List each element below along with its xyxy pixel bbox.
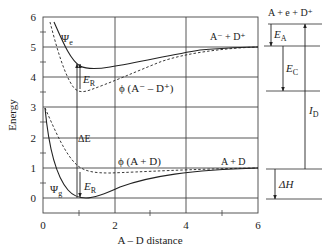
svg-text:5: 5 (31, 41, 37, 53)
x-tick-labels: 0 2 4 6 (40, 219, 261, 231)
svg-text:1: 1 (31, 162, 37, 174)
plot-area (43, 17, 258, 213)
svg-text:2: 2 (112, 219, 118, 231)
plot-labels: Ψe ER ϕ (A⁻ – D⁺) A⁻ + D⁺ ΔE ϕ (A + D) A… (50, 31, 246, 198)
svg-text:3: 3 (31, 101, 37, 113)
svg-text:4: 4 (31, 71, 37, 83)
y-tick-labels: 0 1 2 3 4 5 6 (31, 11, 37, 204)
svg-text:A + e + D⁺: A + e + D⁺ (268, 7, 313, 18)
svg-text:ER: ER (83, 180, 97, 195)
svg-text:2: 2 (31, 132, 37, 144)
svg-text:ER: ER (82, 73, 96, 88)
svg-text:EA: EA (273, 28, 287, 43)
svg-text:ΔH: ΔH (278, 178, 294, 190)
svg-text:ΔE: ΔE (78, 133, 91, 144)
curve-psi-e (54, 22, 258, 69)
svg-text:6: 6 (31, 11, 37, 23)
svg-text:Ψg: Ψg (50, 183, 62, 198)
svg-text:ID: ID (308, 104, 319, 119)
svg-text:4: 4 (183, 219, 189, 231)
svg-text:A⁻ + D⁺: A⁻ + D⁺ (210, 31, 246, 42)
svg-text:ϕ (A + D): ϕ (A + D) (118, 155, 161, 168)
x-axis-label: A – D distance (117, 234, 182, 246)
svg-text:Ψe: Ψe (61, 32, 73, 47)
y-axis-label: Energy (6, 99, 18, 131)
energy-diagram: 0 1 2 3 4 5 6 0 2 4 6 A – D distance Ene… (0, 0, 330, 250)
svg-text:ϕ (A⁻ – D⁺): ϕ (A⁻ – D⁺) (119, 82, 174, 95)
svg-text:6: 6 (255, 219, 261, 231)
svg-text:0: 0 (31, 192, 37, 204)
svg-text:EC: EC (285, 62, 298, 77)
plot-arrows (77, 64, 80, 198)
energy-level-labels: A + e + D⁺ EA EC ID ΔH (268, 7, 319, 190)
svg-text:0: 0 (40, 219, 46, 231)
svg-text:A + D: A + D (221, 156, 246, 167)
